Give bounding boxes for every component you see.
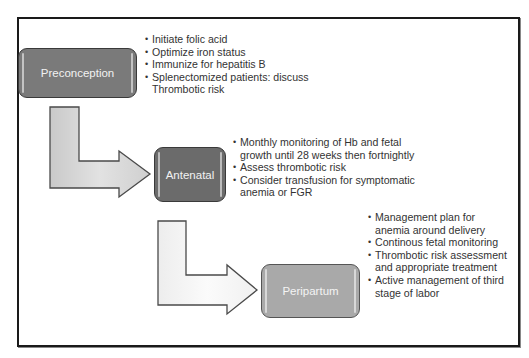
bullet-item: Optimize iron status	[145, 46, 355, 59]
bullet-item: Splenectomized patients: discuss Thrombo…	[145, 71, 355, 96]
stage-preconception: Preconception	[18, 48, 137, 98]
antenatal-bullets: Monthly monitoring of Hb and fetal growt…	[233, 136, 423, 199]
bullet-item: Initiate folic acid	[145, 33, 355, 46]
stage-label: Preconception	[41, 67, 115, 79]
bullet-item: Assess thrombotic risk	[233, 161, 423, 174]
bullet-item: Thrombotic risk assessment and appropria…	[368, 249, 508, 274]
bullet-item: Management plan for anemia around delive…	[368, 211, 508, 236]
bullet-item: Immunize for hepatitis B	[145, 58, 355, 71]
bullet-item: Continous fetal monitoring	[368, 236, 508, 249]
bullet-item: Consider transfusion for symptomatic ane…	[233, 174, 423, 199]
stage-peripartum: Peripartum	[261, 264, 360, 318]
stage-label: Antenatal	[166, 169, 215, 181]
stage-label: Peripartum	[282, 285, 338, 297]
preconception-bullets: Initiate folic acid Optimize iron status…	[145, 33, 355, 96]
bullet-item: Active management of third stage of labo…	[368, 274, 508, 299]
stage-antenatal: Antenatal	[154, 147, 226, 202]
peripartum-bullets: Management plan for anemia around delive…	[368, 211, 508, 299]
bullet-item: Monthly monitoring of Hb and fetal growt…	[233, 136, 423, 161]
